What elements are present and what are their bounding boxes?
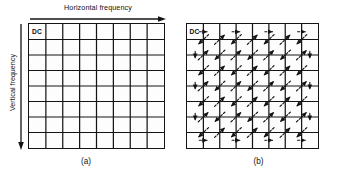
- dc-cell-label-a: DC: [32, 29, 42, 36]
- grid-lines-a: [29, 24, 164, 148]
- panel-a-caption: (a): [0, 157, 172, 166]
- vertical-frequency-arrow-icon: [17, 24, 25, 150]
- figure-root: Horizontal frequency Vertical frequency: [0, 0, 345, 179]
- vertical-frequency-label: Vertical frequency: [8, 43, 17, 123]
- coefficient-grid-a: [28, 23, 165, 149]
- horizontal-frequency-arrow-icon: [30, 16, 166, 23]
- horizontal-frequency-label: Horizontal frequency: [30, 3, 166, 12]
- dc-cell-label-b: DC: [190, 29, 200, 36]
- panel-a: Horizontal frequency Vertical frequency: [0, 0, 172, 179]
- panel-b-caption: (b): [172, 157, 345, 166]
- panel-b: DC (b): [172, 0, 345, 179]
- grid-lines-b: [187, 24, 318, 148]
- coefficient-grid-b: [186, 23, 319, 149]
